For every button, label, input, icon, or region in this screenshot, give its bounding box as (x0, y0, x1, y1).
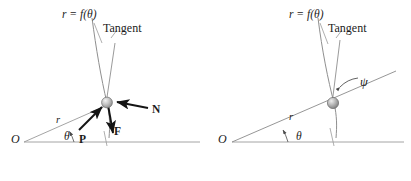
right-tangent-line (332, 40, 340, 104)
right-tangent-label: Tangent (328, 22, 366, 34)
left-force-P-label: P (79, 134, 86, 146)
left-theta-arc (70, 132, 75, 143)
left-tangent-label: Tangent (103, 22, 141, 34)
right-radius-line (232, 71, 396, 142)
right-radius-label: r (289, 112, 293, 123)
left-bead (102, 97, 113, 108)
right-psi-arc (340, 78, 358, 87)
right-polar-curve (318, 18, 337, 138)
right-curve-equation-label: r = f(θ) (289, 9, 324, 21)
right-theta-label: θ (296, 131, 302, 143)
left-radius-label: r (56, 115, 60, 126)
left-foot-tick (104, 131, 107, 146)
figure-root: r = f(θ) Tangent O r θ P F N r = f(θ) Ta… (0, 0, 411, 181)
right-panel-graphics (232, 18, 404, 146)
left-tangent-line (106, 43, 115, 104)
left-vector-N (117, 102, 148, 108)
right-bead (327, 97, 338, 108)
left-vector-P (79, 107, 102, 130)
right-foot-tick (330, 128, 334, 146)
right-origin-label: O (218, 133, 227, 145)
left-curve-equation-label: r = f(θ) (62, 9, 97, 21)
left-origin-label: O (11, 133, 20, 145)
left-vector-F (108, 105, 113, 133)
left-polar-curve (92, 18, 110, 138)
left-theta-label: θ (64, 131, 70, 143)
left-panel-graphics (24, 18, 200, 146)
right-theta-arc (283, 130, 288, 142)
left-force-N-label: N (152, 104, 160, 116)
right-psi-label: ψ (360, 76, 368, 89)
left-force-F-label: F (114, 126, 121, 138)
